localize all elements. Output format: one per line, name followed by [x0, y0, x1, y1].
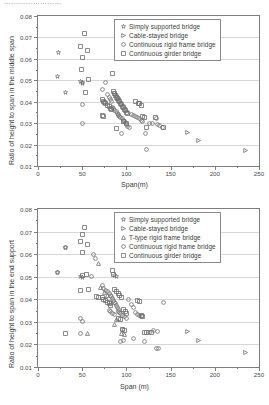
legend-item: Continuous rigid frame bridge — [118, 242, 216, 251]
y-tick-minor — [36, 112, 38, 113]
legend-label: Simply supported bridge — [129, 23, 200, 30]
data-point — [124, 121, 128, 125]
data-point — [143, 131, 147, 135]
data-point — [80, 81, 84, 85]
legend-marker-icon — [118, 49, 129, 58]
data-point — [79, 67, 83, 71]
data-point — [124, 311, 128, 315]
y-tick-minor — [36, 311, 38, 312]
chart-middle-span: 0.010.020.030.040.050.060.070.0805010015… — [0, 10, 269, 202]
y-tick-minor — [36, 243, 38, 244]
data-point — [63, 245, 67, 249]
data-point — [149, 330, 153, 334]
data-point — [142, 115, 146, 119]
legend-item: Cable-stayed bridge — [118, 31, 216, 40]
y-tick-minor — [36, 27, 38, 28]
x-tick-label: 150 — [165, 371, 175, 378]
legend-label: T-type rigid frame bridge — [129, 234, 201, 241]
x-axis-title-end-support: Span (m) — [0, 383, 269, 390]
x-tick-minor — [60, 367, 61, 369]
data-point — [161, 125, 165, 129]
y-tick — [34, 232, 38, 233]
data-point — [55, 270, 59, 274]
data-point — [112, 322, 116, 326]
legend-item: Continuous girder bridge — [118, 251, 216, 260]
data-point — [96, 295, 100, 299]
x-tick-minor — [193, 367, 194, 369]
y-axis-title-end-support: Ratio of height to span in the end suppo… — [8, 240, 15, 368]
y-tick — [34, 145, 38, 146]
data-point — [80, 121, 84, 125]
x-tick-label: 100 — [121, 170, 131, 177]
y-tick-label: 0.05 — [20, 273, 32, 280]
data-point — [80, 250, 84, 254]
legend-marker-icon — [118, 233, 129, 242]
y-tick — [34, 277, 38, 278]
legend-label: Continuous rigid frame bridge — [129, 41, 216, 48]
legend-marker-icon — [118, 22, 129, 31]
y-tick-label: 0.07 — [20, 228, 32, 235]
data-point — [78, 288, 82, 292]
figure-page: …………………… 0.010.020.030.040.050.060.070.0… — [0, 0, 269, 405]
y-tick-label: 0.01 — [20, 364, 32, 371]
x-tick-minor — [104, 166, 105, 168]
data-point — [84, 272, 88, 276]
data-point — [56, 50, 60, 54]
data-point — [118, 317, 122, 321]
data-point — [89, 274, 93, 278]
data-point — [144, 147, 148, 151]
data-point — [80, 55, 84, 59]
y-tick-minor — [36, 333, 38, 334]
gridline-y — [38, 80, 259, 81]
legend-item: Continuous rigid frame bridge — [118, 40, 216, 49]
y-tick — [34, 37, 38, 38]
data-point — [80, 102, 84, 106]
data-point — [243, 350, 247, 354]
x-tick-minor — [237, 367, 238, 369]
x-tick-minor — [104, 367, 105, 369]
y-tick — [34, 123, 38, 124]
data-point — [185, 130, 189, 134]
data-point — [185, 329, 189, 333]
legend-item: T-type rigid frame bridge — [118, 233, 216, 242]
data-point — [86, 287, 90, 291]
data-point — [109, 99, 113, 103]
y-tick — [34, 299, 38, 300]
data-point — [140, 314, 144, 318]
gridline-y — [38, 299, 259, 300]
y-tick-label: 0.03 — [20, 318, 32, 325]
data-point — [103, 80, 107, 84]
x-tick-label: 200 — [210, 170, 220, 177]
y-tick-minor — [36, 265, 38, 266]
data-point — [131, 305, 135, 309]
legend-label: Cable-stayed bridge — [129, 32, 188, 39]
x-tick-label: 0 — [36, 170, 39, 177]
y-tick-minor — [36, 220, 38, 221]
legend-marker-icon — [118, 215, 129, 224]
data-point — [125, 111, 129, 115]
data-point — [86, 77, 90, 81]
legend-marker-icon — [118, 31, 129, 40]
data-point — [243, 148, 247, 152]
x-tick-minor — [149, 367, 150, 369]
legend-marker-icon — [118, 251, 129, 260]
y-axis-title-middle-span: Ratio of height to span in the middle sp… — [8, 36, 15, 165]
y-tick — [34, 322, 38, 323]
x-tick-minor — [237, 166, 238, 168]
chart-end-support: 0.010.020.030.040.050.060.070.0805010015… — [0, 203, 269, 405]
data-point — [78, 331, 82, 335]
y-tick-label: 0.01 — [20, 163, 32, 170]
x-tick-label: 0 — [36, 371, 39, 378]
data-point — [124, 316, 128, 320]
legend-item: Simply supported bridge — [118, 215, 216, 224]
data-point — [109, 107, 113, 111]
x-axis-title-middle-span: Span(m) — [0, 181, 269, 188]
x-tick-label: 250 — [254, 371, 264, 378]
y-tick-label: 0.04 — [20, 98, 32, 105]
legend-end-support: Simply supported bridgeCable-stayed brid… — [114, 212, 221, 263]
y-tick — [34, 80, 38, 81]
data-point — [101, 114, 105, 118]
legend-label: Continuous rigid frame bridge — [129, 243, 216, 250]
y-tick — [34, 59, 38, 60]
y-tick-minor — [36, 356, 38, 357]
